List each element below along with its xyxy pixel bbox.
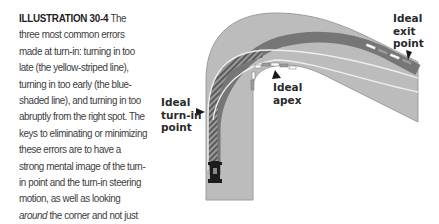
race-car-icon	[208, 161, 222, 183]
racing-line-diagram	[0, 0, 439, 224]
turn-in-point-label: Ideal turn-in point	[161, 96, 202, 134]
apex-label: Ideal apex	[273, 81, 302, 106]
apex-arrow-icon	[272, 70, 281, 79]
exit-point-label: Ideal exit point	[393, 12, 424, 50]
